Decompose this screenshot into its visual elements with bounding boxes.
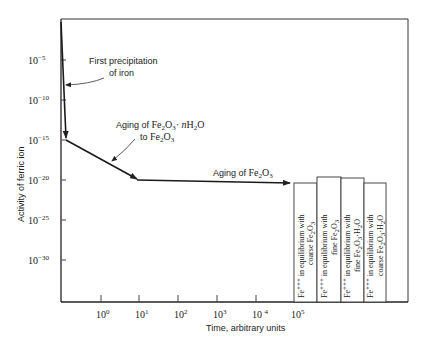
ferric-ion-aging-chart: 10−5 10−10 10−15 10−20 10−25 10−30 100 1… xyxy=(0,0,430,341)
annotation-first-precipitation: First precipitation of iron xyxy=(66,56,158,85)
svg-text:10−20: 10−20 xyxy=(28,174,49,186)
equilibrium-box-coarse-fe2o3: Fe+++ in equilibrium with coarse Fe2O3 xyxy=(294,183,317,302)
y-axis-tick-labels: 10−5 10−10 10−15 10−20 10−25 10−30 xyxy=(28,54,49,266)
y-axis-label: Activity of ferric ion xyxy=(16,146,26,222)
svg-text:105: 105 xyxy=(291,308,305,320)
annotation-aging-hydrate: Aging of Fe2O3· nH2O to Fe2O3 xyxy=(112,119,205,161)
equilibrium-box-coarse-fe2o3-h2o: Fe+++ in equilibrium with coarse Fe2O3·H… xyxy=(364,183,387,302)
svg-text:Aging of Fe2O3· nH2O: Aging of Fe2O3· nH2O xyxy=(116,119,205,132)
svg-text:to Fe2O3: to Fe2O3 xyxy=(140,131,175,144)
activity-curve xyxy=(61,22,290,183)
svg-text:10−5: 10−5 xyxy=(28,54,46,66)
x-axis-ticks xyxy=(101,295,256,302)
svg-text:10−25: 10−25 xyxy=(28,214,49,226)
svg-text:First precipitation: First precipitation xyxy=(89,56,158,66)
svg-text:103: 103 xyxy=(213,308,227,320)
x-axis-label: Time, arbitrary units xyxy=(206,323,286,333)
svg-text:10−10: 10−10 xyxy=(28,94,49,106)
svg-text:Aging of Fe2O3: Aging of Fe2O3 xyxy=(213,167,273,180)
svg-text:10−30: 10−30 xyxy=(28,254,49,266)
x-axis-tick-labels: 100 101 102 103 10 4 105 xyxy=(96,308,305,320)
annotation-aging-fe2o3: Aging of Fe2O3 xyxy=(213,167,273,180)
equilibrium-box-fine-fe2o3-h2o: Fe+++ in equilibrium with fine Fe2O3·H2O xyxy=(341,178,364,302)
svg-text:100: 100 xyxy=(96,308,110,320)
equilibrium-box-fine-fe2o3: Fe+++ in equilibrium with fine Fe2O3 xyxy=(317,177,341,302)
svg-text:10 4: 10 4 xyxy=(252,308,269,320)
svg-text:102: 102 xyxy=(174,308,188,320)
svg-text:10−15: 10−15 xyxy=(28,134,49,146)
svg-text:of iron: of iron xyxy=(109,68,134,78)
svg-text:101: 101 xyxy=(135,308,149,320)
